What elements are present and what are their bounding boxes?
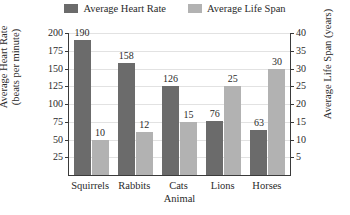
bar-value-label: 30: [262, 57, 291, 67]
y-axis-left-tick-label: 100: [48, 99, 63, 109]
y-axis-right-tick-label: 5: [296, 152, 301, 162]
bar-average-life-span: [268, 69, 285, 176]
y-axis-left-tick-label: 150: [48, 64, 63, 74]
bar-value-label: 158: [112, 51, 141, 61]
bar-average-heart-rate: [118, 63, 135, 175]
bar-average-heart-rate: [162, 86, 179, 175]
y-axis-right-tick-label: 30: [296, 64, 306, 74]
y-axis-right-tick-label: 10: [296, 135, 306, 145]
legend-item-label: Average Heart Rate: [83, 3, 166, 14]
y-axis-right-tick-label: 20: [296, 99, 306, 109]
bar-average-life-span: [224, 86, 241, 175]
y-axis-left-tick-label: 175: [48, 46, 63, 56]
y-axis-right-tick-label: 15: [296, 117, 306, 127]
y-axis-left-title-line1: Average Heart Rate: [0, 7, 10, 127]
y-axis-left-title: Average Heart Rate (beats per minute): [0, 7, 22, 127]
x-axis-title: Animal: [68, 193, 291, 205]
y-axis-right-tick: [290, 69, 294, 70]
y-axis-right-tick: [290, 104, 294, 105]
bar-average-heart-rate: [74, 40, 91, 175]
y-axis-right-tick: [290, 157, 294, 158]
y-axis-right-tick-label: 35: [296, 46, 306, 56]
legend-item-label: Average Life Span: [207, 3, 286, 14]
legend-swatch-icon: [64, 4, 78, 13]
bar-value-label: 15: [174, 110, 203, 120]
y-axis-left-tick-label: 50: [53, 135, 63, 145]
bar-value-label: 12: [130, 120, 159, 130]
y-axis-left-tick-label: 125: [48, 81, 63, 91]
bars-layer: 19010158121261576256330: [69, 33, 290, 175]
bar-value-label: 190: [68, 28, 97, 38]
y-axis-right-tick: [290, 86, 294, 87]
y-axis-right-title: Average Life Span (years): [322, 4, 334, 124]
bar-chart: Average Heart Rate Average Life Span Ave…: [0, 0, 350, 215]
x-axis-category-label: Horses: [237, 180, 297, 192]
y-axis-right-tick-label: 40: [296, 28, 306, 38]
y-axis-right-tick: [290, 140, 294, 141]
bar-value-label: 25: [218, 74, 247, 84]
y-axis-left-tick-label: 200: [48, 28, 63, 38]
y-axis-left-title-line2: (beats per minute): [10, 7, 22, 127]
plot-area: 255075100125150175200 510152025303540 19…: [68, 33, 291, 176]
bar-value-label: 10: [86, 128, 115, 138]
y-axis-right-tick: [290, 51, 294, 52]
bar-average-life-span: [180, 122, 197, 175]
bar-average-heart-rate: [206, 121, 223, 175]
y-axis-left-tick-label: 25: [53, 152, 63, 162]
legend-swatch-icon: [188, 4, 202, 13]
y-axis-left-tick-label: 75: [53, 117, 63, 127]
y-axis-right-tick: [290, 33, 294, 34]
y-axis-right-tick-label: 25: [296, 81, 306, 91]
bar-average-life-span: [92, 140, 109, 176]
y-axis-right-tick: [290, 122, 294, 123]
bar-average-heart-rate: [250, 130, 267, 175]
chart-legend: Average Heart Rate Average Life Span: [0, 3, 350, 14]
bar-value-label: 126: [156, 74, 185, 84]
bar-average-life-span: [136, 132, 153, 175]
legend-item-average-life-span: Average Life Span: [188, 3, 286, 14]
legend-item-average-heart-rate: Average Heart Rate: [64, 3, 166, 14]
